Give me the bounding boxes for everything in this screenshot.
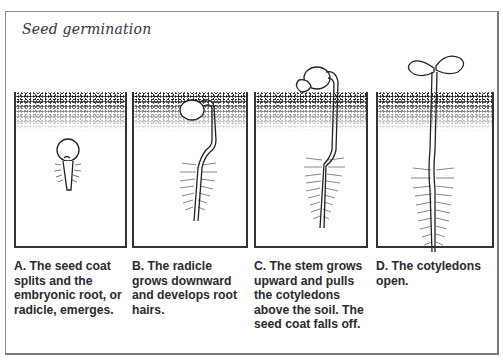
panel-c xyxy=(254,92,368,248)
cotyledons-open-illustration xyxy=(376,0,494,270)
seed-radicle-emerging-illustration xyxy=(14,0,127,260)
caption-b: B. The radicle grows downward and develo… xyxy=(132,259,248,317)
radicle-root-hairs-illustration xyxy=(132,0,248,260)
caption-c: C. The stem grows upward and pulls the c… xyxy=(254,259,366,332)
caption-a: A. The seed coat splits and the embryoni… xyxy=(14,259,126,317)
panel-d xyxy=(376,92,494,248)
stem-pulling-cotyledons-illustration xyxy=(254,0,368,260)
panel-b xyxy=(132,92,248,248)
panel-a xyxy=(14,92,127,248)
caption-d: D. The cotyledons open. xyxy=(376,259,492,288)
